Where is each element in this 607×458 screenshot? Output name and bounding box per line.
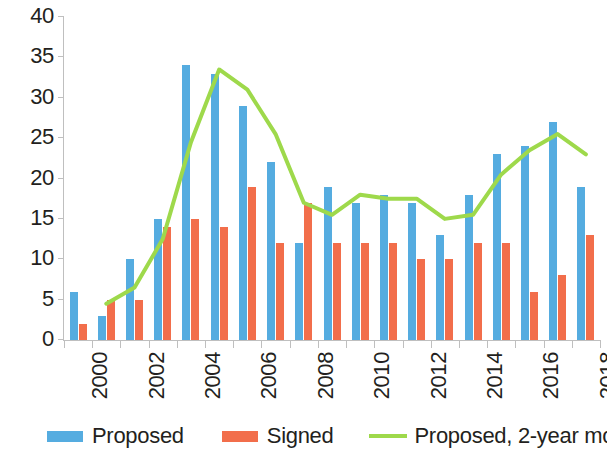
x-tick-mark <box>64 341 65 348</box>
x-tick-mark <box>92 341 93 348</box>
x-tick-mark <box>459 341 460 348</box>
x-tick-mark <box>177 341 178 348</box>
legend-label-proposed: Proposed <box>92 424 184 448</box>
x-tick-label: 2012 <box>427 352 451 399</box>
moving-average-line <box>64 17 600 340</box>
y-tick-label: 5 <box>42 285 54 313</box>
y-tick-label: 25 <box>30 123 54 151</box>
x-tick-mark <box>233 341 234 348</box>
x-tick-label: 2014 <box>483 352 507 399</box>
x-tick-mark <box>572 341 573 348</box>
y-tick-label: 20 <box>30 164 54 192</box>
x-tick-label: 2006 <box>257 352 281 399</box>
x-tick-mark <box>149 341 150 348</box>
legend-item-proposed[interactable]: Proposed <box>47 419 184 453</box>
y-tick-label: 30 <box>30 83 54 111</box>
legend-label-moving-average: Proposed, 2-year moving average <box>414 424 607 448</box>
x-tick-label: 2002 <box>145 352 169 399</box>
line-swatch-green-icon <box>369 434 407 438</box>
legend-item-moving-average[interactable]: Proposed, 2-year moving average <box>369 419 607 453</box>
x-tick-mark <box>205 341 206 348</box>
x-tick-mark <box>318 341 319 348</box>
y-tick-label: 10 <box>30 244 54 272</box>
x-tick-label: 2004 <box>201 352 225 399</box>
x-tick-mark <box>544 341 545 348</box>
x-tick-label: 2008 <box>314 352 338 399</box>
x-tick-mark <box>346 341 347 348</box>
bar-swatch-orange-icon <box>222 431 258 442</box>
x-tick-mark <box>515 341 516 348</box>
bar-swatch-blue-icon <box>47 431 83 442</box>
y-tick-label: 15 <box>30 204 54 232</box>
x-tick-label: 2010 <box>370 352 394 399</box>
x-tick-mark <box>403 341 404 348</box>
y-tick-label: 35 <box>30 42 54 70</box>
x-axis-line <box>63 340 601 341</box>
x-tick-mark <box>487 341 488 348</box>
x-tick-mark <box>290 341 291 348</box>
x-tick-mark <box>120 341 121 348</box>
legend-item-signed[interactable]: Signed <box>222 419 334 453</box>
x-tick-label: 2000 <box>88 352 112 399</box>
x-tick-label: 2016 <box>539 352 563 399</box>
y-tick-label: 40 <box>30 2 54 30</box>
legend: Proposed Signed Proposed, 2-year moving … <box>47 419 607 453</box>
x-tick-mark <box>431 341 432 348</box>
legend-label-signed: Signed <box>267 424 334 448</box>
x-tick-mark <box>261 341 262 348</box>
moving-average-polyline <box>106 69 586 303</box>
y-tick-label: 0 <box>42 325 54 353</box>
x-tick-mark <box>600 341 601 348</box>
x-tick-label: 2018 <box>596 352 607 399</box>
x-tick-mark <box>374 341 375 348</box>
chart-container: 0510152025303540 20002002200420062008201… <box>0 0 607 458</box>
